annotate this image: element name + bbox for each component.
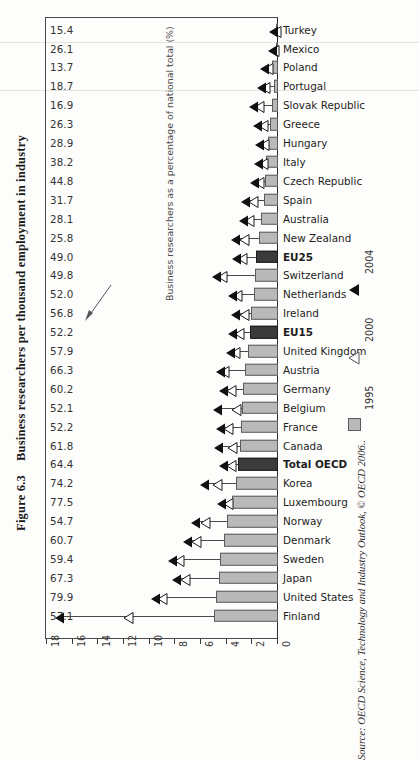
category-label: Netherlands [283,288,346,300]
marker-2004 [215,420,226,433]
bar-1995 [256,250,278,263]
x-axis-tick-label: 10 [153,635,164,647]
x-axis-tick-label: 14 [101,635,112,647]
row-value-label: 13.7 [50,61,73,73]
category-label: Japan [283,572,312,584]
marker-2004 [256,80,267,93]
row-value-label: 49.8 [50,269,73,281]
category-label: EU25 [283,251,313,263]
bar-1995 [242,402,278,415]
chart-row: 57.1Finland [45,603,278,628]
bar-1995 [220,553,278,566]
row-value-label: 25.8 [50,232,73,244]
legend-label: 2004 [364,250,375,274]
bar-1995 [274,80,278,93]
bar-1995 [272,99,278,112]
bar-1995 [243,383,278,396]
category-label: Turkey [283,24,317,36]
bar-1995 [251,307,278,320]
chart-rows: 15.4Turkey26.1Mexico13.7Poland18.7Portug… [45,17,278,622]
marker-2000 [231,401,242,414]
row-value-label: 60.2 [50,383,73,395]
hollow-triangle-icon [348,350,360,369]
marker-2004 [231,250,242,263]
legend-label: 2000 [364,318,375,342]
category-label: Slovak Republic [283,99,365,111]
marker-2004 [218,458,229,471]
marker-2004 [230,307,241,320]
row-value-label: 26.1 [50,43,73,55]
figure-number: Figure 6.3 [13,475,28,531]
category-label: Belgium [283,402,326,414]
marker-2004 [230,231,241,244]
x-axis: 181614121086420 [45,639,278,683]
bar-1995 [255,269,278,282]
bar-1995 [241,420,278,433]
marker-2000 [123,609,134,622]
gray-square-icon [348,418,361,431]
bar-1995 [238,458,278,471]
marker-2000 [200,515,211,528]
row-value-label: 52.0 [50,288,73,300]
category-label: Luxembourg [283,496,348,508]
x-axis-tick [97,639,98,644]
marker-2004 [252,118,263,131]
x-axis-tick-label: 12 [127,635,138,647]
row-value-label: 54.7 [50,515,73,527]
marker-2004 [167,553,178,566]
marker-2004 [253,155,264,168]
x-axis-tick [226,639,227,644]
row-value-label: 67.3 [50,572,73,584]
category-label: Poland [283,61,318,73]
marker-2004 [211,269,222,282]
category-label: Hungary [283,137,327,149]
row-value-label: 28.9 [50,137,73,149]
bar-1995 [245,364,278,377]
marker-2004 [215,363,226,376]
x-axis-tick-label: 6 [204,641,215,647]
marker-2004 [227,288,238,301]
marker-2004 [259,61,270,74]
category-label: Austria [283,364,320,376]
marker-2004 [171,571,182,584]
row-value-label: 52.2 [50,421,73,433]
x-axis-tick-label: 0 [281,641,292,647]
row-value-label: 15.4 [50,24,73,36]
category-label: France [283,421,318,433]
bar-1995 [227,515,278,528]
row-value-label: 31.7 [50,194,73,206]
marker-2004 [249,174,260,187]
x-axis-tick [46,639,47,644]
row-value-label: 52.2 [50,326,73,338]
marker-2004 [54,609,65,622]
category-label: New Zealand [283,232,351,244]
x-axis-tick [174,639,175,644]
category-label: Spain [283,194,312,206]
marker-2004 [199,477,210,490]
row-value-label: 79.9 [50,591,73,603]
bar-1995 [250,326,278,339]
category-label: Finland [283,610,320,622]
row-value-label: 56.8 [50,307,73,319]
row-value-label: 59.4 [50,553,73,565]
row-value-label: 57.9 [50,345,73,357]
bar-1995 [232,496,278,509]
marker-2004 [182,534,193,547]
bar-1995 [248,345,278,358]
marker-2004 [248,99,259,112]
marker-2004 [216,496,227,509]
row-value-label: 44.8 [50,175,73,187]
bar-1995 [259,231,278,244]
x-axis-tick [277,639,278,644]
marker-2004 [254,137,265,150]
row-value-label: 61.8 [50,440,73,452]
bar-1995 [216,591,278,604]
category-label: Sweden [283,553,324,565]
marker-2004 [190,515,201,528]
row-value-label: 77.5 [50,496,73,508]
category-label: Ireland [283,307,319,319]
marker-2004 [218,382,229,395]
category-label: Total OECD [283,458,347,470]
marker-2004 [225,345,236,358]
category-label: Czech Republic [283,175,362,187]
